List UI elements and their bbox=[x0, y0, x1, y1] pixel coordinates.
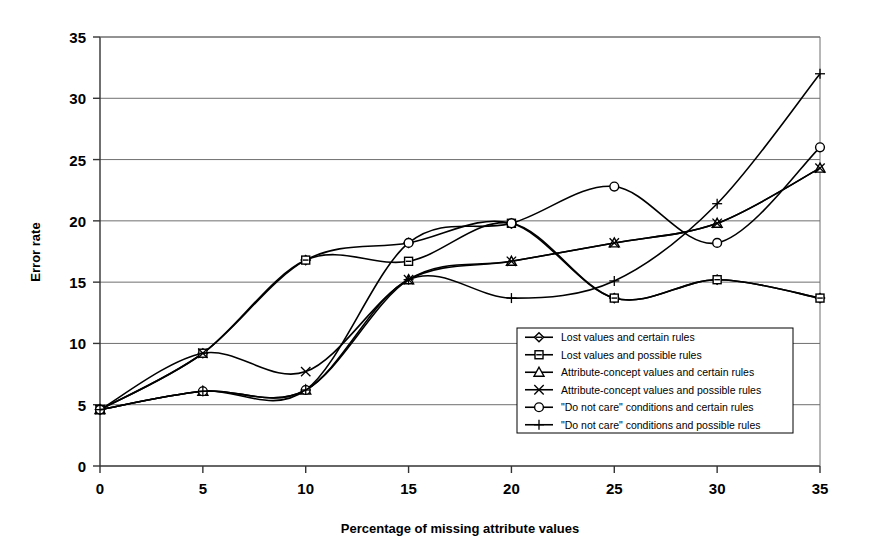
y-tick-label: 10 bbox=[69, 335, 86, 352]
data-point-circle-marker bbox=[535, 403, 544, 412]
y-tick-label: 5 bbox=[78, 397, 86, 414]
legend-label: "Do not care" conditions and certain rul… bbox=[561, 401, 753, 413]
data-point-square-marker bbox=[713, 276, 721, 284]
legend-box bbox=[517, 328, 793, 433]
data-point-square-marker bbox=[535, 351, 543, 359]
y-tick-label: 0 bbox=[78, 458, 86, 475]
chart-figure: 05101520253035 05101520253035 Error rate… bbox=[0, 0, 869, 559]
legend-item-4: Attribute-concept values and possible ru… bbox=[525, 384, 761, 396]
legend-label: Attribute-concept values and certain rul… bbox=[561, 366, 754, 378]
x-tick-label: 0 bbox=[96, 480, 104, 497]
chart-legend: Lost values and certain rulesLost values… bbox=[517, 328, 793, 433]
y-tick-label: 35 bbox=[69, 29, 86, 46]
chart-background bbox=[0, 0, 869, 559]
x-tick-label: 25 bbox=[606, 480, 623, 497]
x-tick-label: 5 bbox=[199, 480, 207, 497]
x-tick-label: 35 bbox=[812, 480, 829, 497]
x-tick-label: 20 bbox=[503, 480, 520, 497]
x-axis-title: Percentage of missing attribute values bbox=[341, 521, 579, 536]
y-tick-label: 15 bbox=[69, 274, 86, 291]
data-point-square-marker bbox=[816, 294, 824, 302]
legend-label: "Do not care" conditions and possible ru… bbox=[561, 419, 761, 431]
y-tick-label: 25 bbox=[69, 152, 86, 169]
data-point-circle-marker bbox=[507, 219, 516, 228]
data-point-circle-marker bbox=[713, 239, 722, 248]
legend-label: Attribute-concept values and possible ru… bbox=[561, 384, 761, 396]
x-tick-label: 30 bbox=[709, 480, 726, 497]
y-axis-title: Error rate bbox=[28, 222, 43, 281]
legend-label: Lost values and certain rules bbox=[561, 331, 695, 343]
y-tick-label: 20 bbox=[69, 213, 86, 230]
data-point-circle-marker bbox=[404, 239, 413, 248]
legend-item-6: "Do not care" conditions and possible ru… bbox=[525, 419, 761, 431]
data-point-square-marker bbox=[405, 257, 413, 265]
data-point-circle-marker bbox=[816, 143, 825, 152]
data-point-circle-marker bbox=[610, 182, 619, 191]
legend-label: Lost values and possible rules bbox=[561, 349, 702, 361]
data-point-square-marker bbox=[610, 294, 618, 302]
x-tick-label: 15 bbox=[400, 480, 417, 497]
y-tick-label: 30 bbox=[69, 90, 86, 107]
data-point-square-marker bbox=[302, 256, 310, 264]
line-chart: 05101520253035 05101520253035 Error rate… bbox=[0, 0, 869, 559]
x-tick-label: 10 bbox=[297, 480, 314, 497]
